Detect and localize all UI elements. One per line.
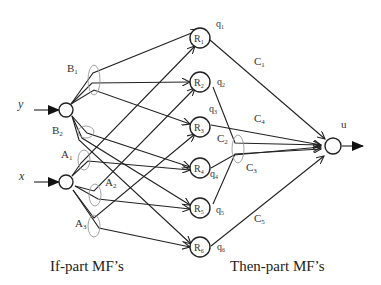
- rule-nodes: [190, 28, 210, 257]
- q-label-1: q1: [216, 18, 224, 30]
- input-label-y: y: [17, 97, 24, 111]
- mf-label-a2: A2: [105, 176, 117, 190]
- output-label-u: u: [341, 118, 347, 130]
- mf-label-c3: C3: [246, 161, 257, 175]
- q-label-3: q3: [209, 103, 217, 115]
- neuro-fuzzy-diagram: y x B1 B2 A1 A2 A3 R1 R2 R3 R4 R5 R6 q1 …: [0, 0, 381, 285]
- connections-b2: [72, 116, 191, 244]
- q-label-2: q2: [217, 76, 225, 88]
- mf-label-a1: A1: [61, 148, 73, 162]
- connections-b1: [71, 30, 199, 124]
- output-node-u: [325, 138, 341, 154]
- caption-then-part: Then-part MF’s: [230, 258, 325, 274]
- q-label-4: q4: [210, 168, 218, 180]
- r2-c2-link: [213, 87, 321, 145]
- input-label-x: x: [18, 169, 25, 183]
- mf-label-c2: C2: [217, 132, 228, 146]
- mf-label-c1: C1: [254, 55, 265, 69]
- q-label-6: q6: [217, 241, 225, 253]
- input-node-y: [59, 103, 73, 117]
- connections-a1: [72, 46, 195, 176]
- mf-label-b1: B1: [67, 62, 78, 76]
- mf-label-c5: C5: [254, 212, 265, 226]
- caption-if-part: If-part MF’s: [50, 258, 124, 274]
- mf-label-b2: B2: [52, 124, 63, 138]
- input-node-x: [59, 175, 73, 189]
- q-label-5: q5: [216, 204, 224, 216]
- mf-label-c4: C4: [254, 112, 265, 126]
- c2-mf-ellipse: [232, 135, 244, 163]
- input-arrows: [34, 110, 59, 182]
- mf-label-a3: A3: [75, 217, 87, 231]
